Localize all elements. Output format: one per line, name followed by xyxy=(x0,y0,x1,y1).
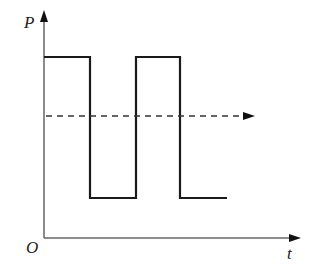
average-arrow-icon xyxy=(243,112,255,120)
y-axis-arrow-icon xyxy=(40,10,48,22)
x-axis-label: t xyxy=(287,244,293,263)
x-axis-arrow-icon xyxy=(289,234,301,242)
power-time-diagram: P t O xyxy=(0,0,318,277)
origin-label: O xyxy=(26,238,38,257)
square-wave-line xyxy=(44,57,227,198)
y-axis-label: P xyxy=(23,13,34,32)
